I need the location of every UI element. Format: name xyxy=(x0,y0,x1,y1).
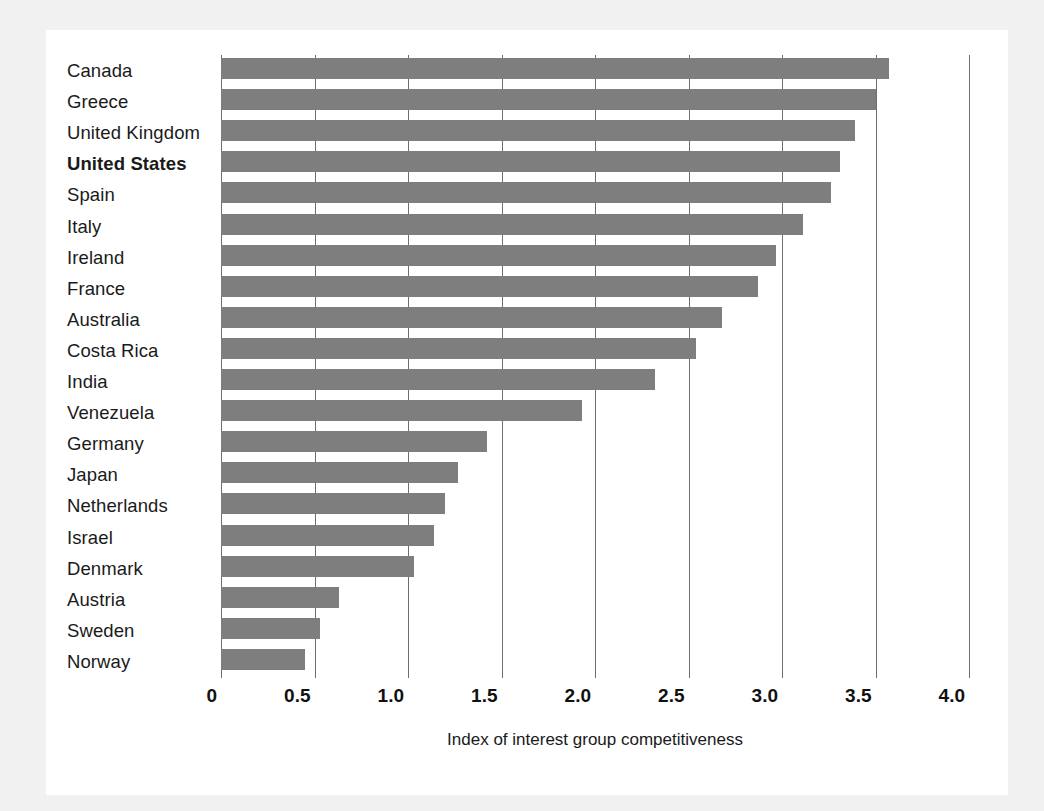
bar-chart: CanadaGreeceUnited KingdomUnited StatesS… xyxy=(46,30,1008,795)
bar xyxy=(221,649,305,670)
x-axis-title: Index of interest group competitiveness xyxy=(221,730,969,750)
category-label: Canada xyxy=(67,55,132,86)
bar-row xyxy=(221,148,969,179)
bar xyxy=(221,462,458,483)
bar-row xyxy=(221,366,969,397)
x-tick-label: 0.5 xyxy=(284,685,314,707)
bar-row xyxy=(221,459,969,490)
x-tick-label: 0 xyxy=(206,685,221,707)
bar-row xyxy=(221,117,969,148)
category-label: India xyxy=(67,366,108,397)
x-tick-label: 3.0 xyxy=(752,685,782,707)
category-axis-labels: CanadaGreeceUnited KingdomUnited StatesS… xyxy=(67,55,217,678)
bar-row xyxy=(221,490,969,521)
bar-row xyxy=(221,242,969,273)
x-tick-label: 3.5 xyxy=(845,685,875,707)
bar xyxy=(221,338,696,359)
x-tick-label: 2.5 xyxy=(658,685,688,707)
bar-row xyxy=(221,335,969,366)
category-label: Ireland xyxy=(67,242,124,273)
bar-row xyxy=(221,273,969,304)
x-tick-label: 1.0 xyxy=(378,685,408,707)
x-tick-label: 4.0 xyxy=(939,685,969,707)
bar xyxy=(221,245,776,266)
category-label: United Kingdom xyxy=(67,117,200,148)
x-tick-label: 1.5 xyxy=(471,685,501,707)
bar-row xyxy=(221,615,969,646)
bar-row xyxy=(221,86,969,117)
bar-row xyxy=(221,304,969,335)
category-label: Netherlands xyxy=(67,490,168,521)
bar xyxy=(221,525,434,546)
figure-card: CanadaGreeceUnited KingdomUnited StatesS… xyxy=(46,30,1008,795)
bar xyxy=(221,58,889,79)
bar-row xyxy=(221,522,969,553)
category-label: Italy xyxy=(67,211,101,242)
bar-row xyxy=(221,646,969,677)
category-label: Sweden xyxy=(67,615,134,646)
bar-row xyxy=(221,397,969,428)
bar xyxy=(221,400,582,421)
bar xyxy=(221,307,722,328)
bar xyxy=(221,89,876,110)
bar-row xyxy=(221,553,969,584)
category-label: Israel xyxy=(67,522,113,553)
bar xyxy=(221,556,414,577)
category-label: Germany xyxy=(67,428,144,459)
bar xyxy=(221,493,445,514)
bar xyxy=(221,214,803,235)
category-label: Austria xyxy=(67,584,125,615)
category-label: Norway xyxy=(67,646,130,677)
gridline-4.0 xyxy=(969,55,970,678)
bar xyxy=(221,276,758,297)
bar xyxy=(221,120,855,141)
bar xyxy=(221,369,655,390)
category-label: Denmark xyxy=(67,553,143,584)
bar-row xyxy=(221,179,969,210)
page-root: CanadaGreeceUnited KingdomUnited StatesS… xyxy=(0,0,1044,811)
bar-row xyxy=(221,584,969,615)
plot-area xyxy=(221,55,969,678)
bar-row xyxy=(221,211,969,242)
bar-row xyxy=(221,428,969,459)
category-label: France xyxy=(67,273,125,304)
category-label: Venezuela xyxy=(67,397,154,428)
category-label: Spain xyxy=(67,179,115,210)
x-tick-label: 2.0 xyxy=(565,685,595,707)
category-label: Greece xyxy=(67,86,128,117)
category-label: Japan xyxy=(67,459,118,490)
bar xyxy=(221,587,339,608)
category-label: Australia xyxy=(67,304,140,335)
bar xyxy=(221,151,840,172)
bar xyxy=(221,431,487,452)
bar-row xyxy=(221,55,969,86)
category-label: United States xyxy=(67,148,187,179)
category-label: Costa Rica xyxy=(67,335,158,366)
bar xyxy=(221,182,831,203)
bar xyxy=(221,618,320,639)
value-axis-ticks: 00.51.01.52.02.53.03.54.0 xyxy=(221,685,969,715)
